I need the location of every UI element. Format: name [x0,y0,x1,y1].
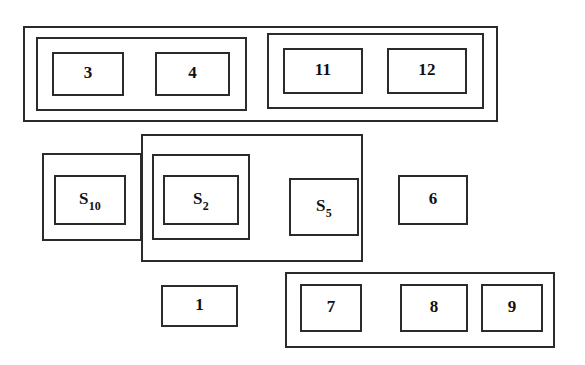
box-s2[interactable]: S2 [163,175,239,225]
box-6[interactable]: 6 [398,175,468,225]
box-8[interactable]: 8 [400,284,468,332]
box-s5-label: S5 [316,197,332,217]
box-7-label: 7 [327,298,336,318]
box-s10[interactable]: S10 [54,175,126,225]
box-9-label: 9 [508,298,517,318]
box-4[interactable]: 4 [155,52,230,96]
box-s5[interactable]: S5 [289,178,359,236]
box-4-label: 4 [188,64,197,84]
box-8-label: 8 [430,298,439,318]
box-11-label: 11 [315,61,331,81]
box-1[interactable]: 1 [161,285,238,327]
box-7[interactable]: 7 [300,284,362,332]
box-11[interactable]: 11 [283,48,363,94]
box-1-label: 1 [195,296,204,316]
box-9[interactable]: 9 [481,284,543,332]
box-12[interactable]: 12 [387,48,467,94]
box-6-label: 6 [429,190,438,210]
box-3[interactable]: 3 [52,52,124,96]
box-s2-label: S2 [193,190,209,210]
box-s10-label: S10 [79,190,101,210]
box-3-label: 3 [84,64,93,84]
box-12-label: 12 [418,61,435,81]
diagram-canvas: 3 4 11 12 S10 S2 S5 6 1 7 8 9 [0,0,585,365]
